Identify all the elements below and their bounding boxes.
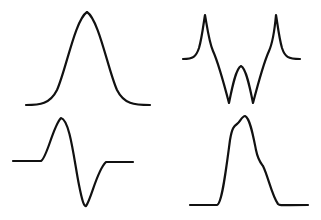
gaussian-curve	[26, 12, 150, 105]
skewed-peak-curve	[190, 116, 308, 205]
double-peak-curve	[183, 15, 300, 103]
curves-svg	[0, 0, 321, 220]
derivative-curve	[13, 118, 133, 206]
figure-canvas	[0, 0, 321, 220]
